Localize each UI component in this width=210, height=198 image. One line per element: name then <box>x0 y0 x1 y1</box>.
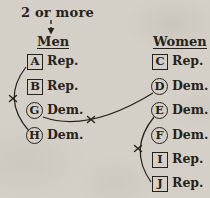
square-marker-b: B <box>27 79 43 95</box>
square-marker-i: I <box>152 152 168 168</box>
party-label-f: Dem. <box>172 129 208 142</box>
person-node-f: F Dem. <box>151 127 208 144</box>
circle-marker-g: G <box>26 102 43 119</box>
circle-marker-f: F <box>151 127 168 144</box>
annotation-label: 2 or more <box>21 5 94 20</box>
party-label-b: Rep. <box>47 80 78 93</box>
square-marker-a: A <box>27 54 43 70</box>
annotation-arrow-icon <box>48 20 55 35</box>
person-node-d: D Dem. <box>151 78 208 95</box>
circle-marker-d: D <box>151 78 168 95</box>
connection-lines-layer <box>0 0 210 198</box>
person-node-e: E Dem. <box>151 102 208 119</box>
column-title-women: Women <box>153 35 207 49</box>
square-marker-c: C <box>152 54 168 70</box>
connection-curve-a-h <box>14 67 29 131</box>
person-node-i: I Rep. <box>152 151 203 168</box>
party-label-a: Rep. <box>47 55 78 68</box>
party-label-c: Rep. <box>172 55 203 68</box>
party-label-e: Dem. <box>172 104 208 117</box>
cross-out-x-icon-a-h <box>10 96 17 102</box>
party-label-d: Dem. <box>172 80 208 93</box>
person-node-g: G Dem. <box>26 102 83 119</box>
person-node-h: H Dem. <box>26 127 83 144</box>
person-node-c: C Rep. <box>152 53 203 70</box>
person-node-a: A Rep. <box>27 53 78 70</box>
person-node-j: J Rep. <box>152 175 203 192</box>
square-marker-j: J <box>152 176 168 192</box>
circle-marker-h: H <box>26 127 43 144</box>
circle-marker-e: E <box>151 102 168 119</box>
diagram-canvas: 2 or more Men Women A Rep. B Rep. G Dem.… <box>0 0 210 198</box>
party-label-h: Dem. <box>47 129 83 142</box>
party-label-i: Rep. <box>172 153 203 166</box>
person-node-b: B Rep. <box>27 78 78 95</box>
column-title-men: Men <box>37 35 69 49</box>
party-label-j: Rep. <box>172 177 203 190</box>
party-label-g: Dem. <box>47 104 83 117</box>
